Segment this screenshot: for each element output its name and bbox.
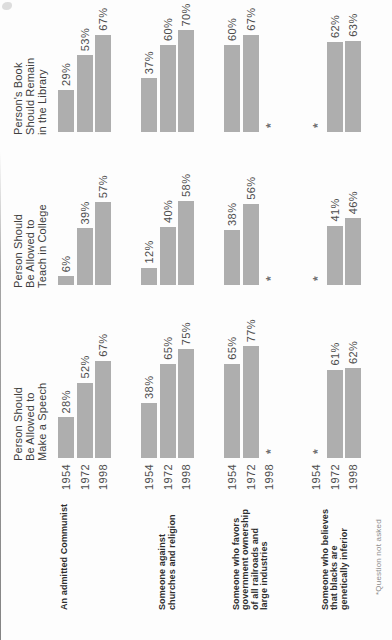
bar [77,383,93,458]
bar-value-label: 70% [178,3,194,26]
bar-value-label: 6% [58,256,74,273]
bar-value-label: 65% [224,337,240,360]
year-label: 1998 [178,464,194,500]
figure-page: *Question not asked Person Should Be All… [0,0,392,640]
bar-value-label: 75% [178,322,194,345]
bar [141,78,157,132]
bar-value-label: 52% [77,355,93,378]
section-header-library: Person's Book Should Remain in the Libra… [12,58,48,135]
bar-value-label: 67% [95,8,111,31]
bar [77,228,93,285]
bar-value-label: 77% [243,319,259,342]
bar [58,276,74,285]
bar-value-label: 60% [160,18,176,41]
bar-value-label: 67% [95,334,111,357]
year-label: 1954 [308,464,324,500]
bar-value-label: 40% [160,200,176,223]
bar [224,230,240,285]
bar-value-label: 38% [141,376,157,399]
bar [345,368,361,458]
bar-value-label: 41% [327,198,343,221]
bar-value-label: 60% [224,18,240,41]
bar-value-label: 12% [141,240,157,263]
bar-value-label: 53% [77,28,93,51]
bar [58,90,74,132]
bar-value-label: 62% [327,15,343,38]
bar [327,42,343,132]
bar [178,201,194,285]
footnote: *Question not asked [374,519,383,595]
year-label: 1972 [77,464,93,500]
bar-value-label: 46% [345,191,361,214]
bar [345,41,361,132]
bar-value-label: 61% [327,342,343,365]
rotated-chart-wrapper: *Question not asked Person Should Be All… [0,0,392,640]
bar [95,202,111,285]
missing-data-asterisk: * [261,449,279,454]
bar-value-label: 65% [160,337,176,360]
bar [243,204,259,285]
bar [178,31,194,133]
bar [141,403,157,458]
page-edge-line [0,152,1,640]
missing-data-asterisk: * [261,123,279,128]
bar [77,55,93,132]
bar [178,349,194,458]
bar-value-label: 62% [345,341,361,364]
missing-data-asterisk: * [308,449,326,454]
bar-value-label: 67% [243,8,259,31]
section-header-speech: Person Should Be Allowed to Make a Speec… [12,383,48,461]
bar [141,268,157,285]
year-label: 1972 [243,464,259,500]
bar [95,35,111,132]
year-label: 1954 [224,464,240,500]
bar-value-label: 39% [77,201,93,224]
bar-value-label: 63% [345,13,361,36]
bar [327,226,343,285]
section-header-teach: Person Should Be Allowed to Teach in Col… [12,204,48,288]
year-label: 1954 [58,464,74,500]
year-label: 1972 [327,464,343,500]
bar-value-label: 57% [95,175,111,198]
year-label: 1998 [261,464,277,500]
bar [160,227,176,285]
year-label: 1998 [345,464,361,500]
bar [160,45,176,132]
missing-data-asterisk: * [261,276,279,281]
bar [327,370,343,458]
bar [58,417,74,458]
year-label: 1972 [160,464,176,500]
chart-canvas: *Question not asked Person Should Be All… [0,0,392,640]
bar [345,218,361,285]
bar [160,364,176,458]
bar-value-label: 28% [58,390,74,413]
bar-value-label: 58% [178,174,194,197]
bar-value-label: 37% [141,51,157,74]
bar [224,364,240,458]
bar [224,45,240,132]
bar-value-label: 38% [224,203,240,226]
bar-value-label: 29% [58,63,74,86]
missing-data-asterisk: * [308,123,326,128]
bar [243,35,259,132]
bar [95,361,111,458]
missing-data-asterisk: * [308,276,326,281]
bar-value-label: 56% [243,177,259,200]
year-label: 1998 [95,464,111,500]
year-label: 1954 [141,464,157,500]
bar [243,346,259,458]
